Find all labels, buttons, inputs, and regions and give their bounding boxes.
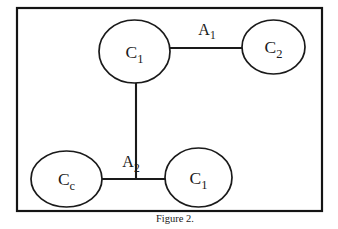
edge-a1-label: A1 <box>198 21 216 41</box>
edge-a2-label-subscript: 2 <box>134 162 140 174</box>
figure-caption: Figure 2. <box>156 213 194 224</box>
node-cc-subscript: c <box>70 179 76 193</box>
node-c1-top-subscript: 1 <box>137 52 143 66</box>
edge-a1-label-base: A <box>198 21 210 38</box>
node-c1-bottom-base: C <box>190 168 202 188</box>
node-c1-bottom-subscript: 1 <box>201 178 207 192</box>
node-c2-base: C <box>265 37 277 57</box>
edge-a1-label-subscript: 1 <box>210 29 216 41</box>
node-cc-base: C <box>58 169 70 189</box>
edge-a2-label: A2 <box>122 153 140 174</box>
figure-canvas: C1 C2 Cc C1 A1 A2 Figure 2. <box>0 0 338 229</box>
edge-a2-label-base: A <box>122 153 134 170</box>
node-c1-top-base: C <box>126 42 138 62</box>
figure-page: C1 C2 Cc C1 A1 A2 Figure 2. <box>0 0 338 229</box>
node-c2-subscript: 2 <box>276 47 282 61</box>
